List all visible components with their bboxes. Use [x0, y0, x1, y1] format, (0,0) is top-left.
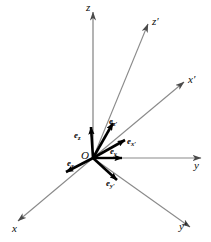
unit-vector-e-y-prime — [93, 158, 117, 180]
axis-label-z-prime: z′ — [152, 16, 159, 27]
axis-label-y: y — [194, 160, 199, 171]
unit-vector-label-e-z: ez — [74, 131, 81, 141]
vec-sub-e-y: y — [114, 150, 117, 157]
vec-sub-e-x: x — [71, 162, 74, 169]
axis-label-y-prime: y′ — [179, 221, 186, 232]
axis-label-x: x — [12, 223, 17, 234]
axis-line-x — [18, 158, 93, 221]
unit-vector-label-e-y: ey — [110, 147, 117, 157]
vec-sub-e-y-prime: y′ — [110, 182, 115, 189]
axis-label-x-prime: x′ — [188, 74, 195, 85]
unit-vector-label-e-x-prime: ex′ — [127, 137, 136, 147]
axis-line-y-prime — [93, 158, 190, 227]
vec-sub-e-z: z — [78, 134, 81, 141]
axis-label-z: z — [86, 2, 90, 13]
unit-vector-label-e-x: ex — [67, 159, 74, 169]
vector-diagram-figure: O z y x z′ x′ y′ ez ez′ ex′ ey ex ey′ — [0, 0, 211, 242]
axis-line-x-prime — [93, 82, 184, 158]
diagram-canvas — [0, 0, 211, 242]
axis-line-z-prime — [93, 24, 148, 158]
vec-sub-e-z-prime: z′ — [113, 120, 117, 127]
unit-vector-label-e-y-prime: ey′ — [106, 179, 115, 189]
vec-sub-e-x-prime: x′ — [131, 140, 136, 147]
origin-label: O — [81, 150, 89, 161]
unit-vector-label-e-z-prime: ez′ — [109, 117, 117, 127]
